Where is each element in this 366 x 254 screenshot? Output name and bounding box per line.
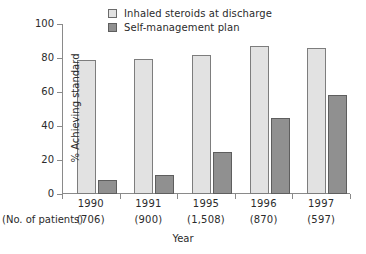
bar-1990-series-2 bbox=[98, 180, 117, 194]
y-tick bbox=[57, 92, 62, 93]
bar-1991-series-2 bbox=[155, 175, 174, 194]
x-label-group-1997: 1997(597) bbox=[292, 198, 350, 226]
x-tick bbox=[350, 194, 351, 199]
bar-group-1996 bbox=[250, 46, 290, 194]
bar-1991-series-1 bbox=[134, 59, 153, 194]
bar-1996-series-1 bbox=[250, 46, 269, 194]
bar-1995-series-1 bbox=[192, 55, 211, 194]
x-label-patient-count: (597) bbox=[292, 214, 350, 226]
x-label-year: 1990 bbox=[62, 198, 120, 210]
bar-1996-series-2 bbox=[271, 118, 290, 195]
x-label-group-1996: 1996(870) bbox=[235, 198, 293, 226]
bar-1995-series-2 bbox=[213, 152, 232, 195]
bar-group-1990 bbox=[77, 60, 117, 194]
bar-group-1991 bbox=[134, 59, 174, 194]
x-label-patient-count: (1,508) bbox=[177, 214, 235, 226]
y-tick-label: 20 bbox=[28, 155, 54, 165]
light-gray-swatch-icon bbox=[108, 9, 117, 18]
y-tick-label: 40 bbox=[28, 121, 54, 131]
x-label-year: 1995 bbox=[177, 198, 235, 210]
bar-1997-series-1 bbox=[307, 48, 326, 194]
y-axis-title: % Achieving standard bbox=[70, 33, 82, 183]
legend-item-inhaled-steroids: Inhaled steroids at discharge bbox=[108, 7, 272, 20]
x-axis-title: Year bbox=[0, 233, 366, 245]
y-tick bbox=[57, 126, 62, 127]
plot-area: 020406080100 % Achieving standard bbox=[62, 24, 350, 194]
x-axis-category-labels: 1990(706)1991(900)1995(1,508)1996(870)19… bbox=[62, 198, 350, 232]
bar-group-1995 bbox=[192, 55, 232, 194]
x-label-patient-count: (900) bbox=[120, 214, 178, 226]
x-label-group-1995: 1995(1,508) bbox=[177, 198, 235, 226]
y-tick-label: 60 bbox=[28, 87, 54, 97]
x-label-year: 1991 bbox=[120, 198, 178, 210]
bar-1997-series-2 bbox=[328, 95, 347, 194]
grouped-bar-chart: Inhaled steroids at discharge Self-manag… bbox=[0, 0, 366, 254]
y-tick bbox=[57, 24, 62, 25]
x-label-year: 1996 bbox=[235, 198, 293, 210]
y-tick bbox=[57, 58, 62, 59]
y-tick-label: 80 bbox=[28, 53, 54, 63]
x-label-group-1991: 1991(900) bbox=[120, 198, 178, 226]
y-axis-line bbox=[62, 24, 63, 194]
patients-row-label: (No. of patients) bbox=[2, 214, 62, 226]
legend-label-inhaled-steroids: Inhaled steroids at discharge bbox=[124, 8, 272, 19]
x-label-year: 1997 bbox=[292, 198, 350, 210]
y-tick-label: 0 bbox=[28, 189, 54, 199]
x-label-patient-count: (870) bbox=[235, 214, 293, 226]
bar-group-1997 bbox=[307, 48, 347, 194]
y-tick bbox=[57, 160, 62, 161]
y-tick-label: 100 bbox=[28, 19, 54, 29]
